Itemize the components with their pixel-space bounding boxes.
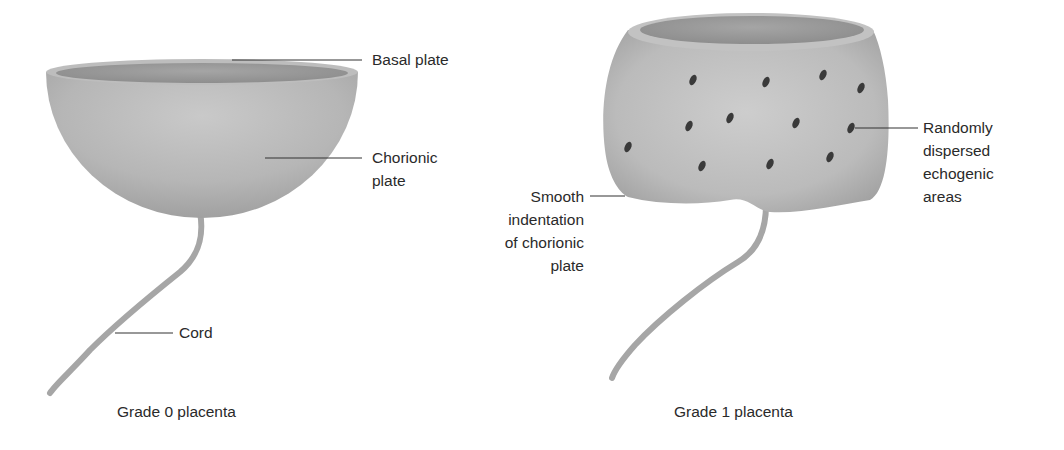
placenta-bowl — [46, 72, 358, 218]
grade-0-placenta — [46, 59, 362, 393]
label-echogenic-line3: echogenic — [923, 165, 994, 183]
label-echogenic-line4: areas — [923, 188, 962, 206]
umbilical-cord — [612, 205, 766, 378]
placenta-body — [603, 30, 888, 212]
label-echogenic-line2: dispersed — [923, 142, 990, 160]
label-indentation-line3: of chorionic — [480, 234, 584, 252]
label-chorionic-plate-line2: plate — [372, 172, 406, 190]
basal-plate-surface — [640, 16, 864, 44]
basal-plate-surface — [56, 63, 348, 83]
label-basal-plate: Basal plate — [372, 51, 449, 69]
label-echogenic-line1: Randomly — [923, 119, 993, 137]
label-cord: Cord — [179, 324, 213, 342]
caption-grade-1: Grade 1 placenta — [674, 403, 793, 421]
caption-grade-0: Grade 0 placenta — [117, 403, 236, 421]
label-indentation-line4: plate — [480, 257, 584, 275]
label-indentation-line2: indentation — [480, 211, 584, 229]
label-indentation-line1: Smooth — [480, 188, 584, 206]
grade-1-placenta — [590, 13, 918, 378]
umbilical-cord — [50, 212, 201, 393]
label-chorionic-plate-line1: Chorionic — [372, 149, 437, 167]
